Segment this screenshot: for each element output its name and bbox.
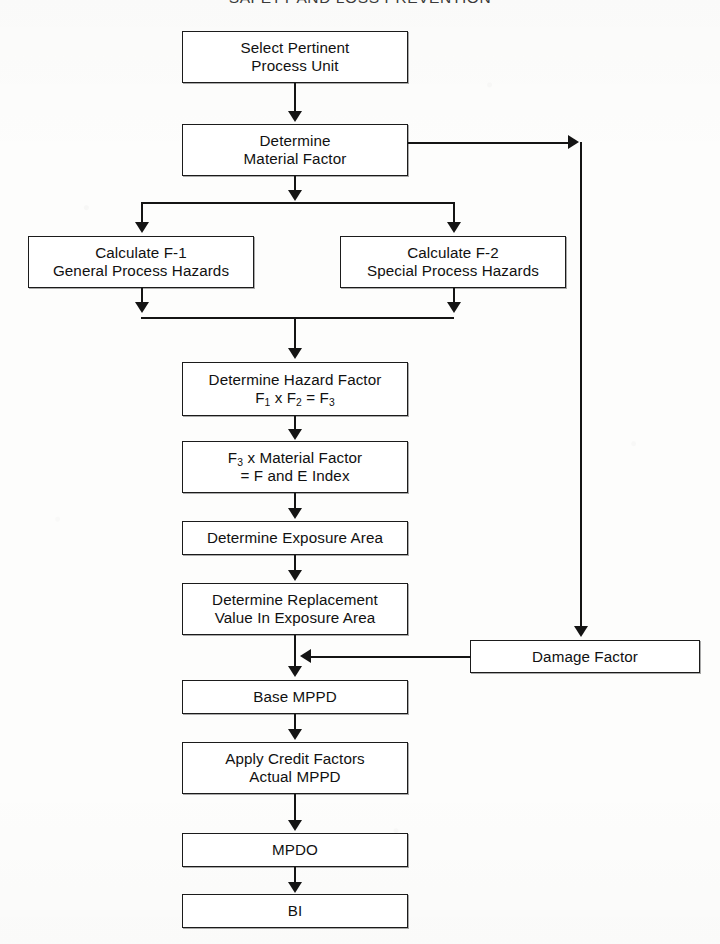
connector-material-factor-to-right-rail <box>408 142 571 144</box>
arrowhead-down-icon <box>288 729 302 740</box>
arrowhead-down-icon <box>447 302 461 313</box>
node-label: Determine Hazard FactorF1 x F2 = F3 <box>205 371 386 407</box>
arrowhead-down-icon <box>288 820 302 831</box>
arrowhead-down-icon <box>288 190 302 201</box>
arrowhead-down-icon <box>288 429 302 440</box>
connector-split-to-f2 <box>453 202 455 224</box>
node-determine-material-factor[interactable]: Determine Material Factor <box>182 124 408 176</box>
arrowhead-down-icon <box>288 882 302 893</box>
connector-base-mppd-to-credit-factors <box>294 714 296 730</box>
node-label: BI <box>284 902 307 920</box>
arrowhead-down-icon <box>288 508 302 519</box>
node-calculate-f2-special-process-hazards[interactable]: Calculate F-2 Special Process Hazards <box>340 236 566 288</box>
node-damage-factor[interactable]: Damage Factor <box>470 640 700 673</box>
connector-credit-factors-to-mpdo <box>294 794 296 821</box>
node-label: Calculate F-2 Special Process Hazards <box>363 244 543 280</box>
connector-split-to-f1 <box>141 202 143 224</box>
node-apply-credit-factors-actual-mppd[interactable]: Apply Credit Factors Actual MPPD <box>182 742 408 794</box>
node-calculate-f1-general-process-hazards[interactable]: Calculate F-1 General Process Hazards <box>28 236 254 288</box>
flowchart-page: SAFETY AND LOSS PREVENTION Select Pertin… <box>0 0 720 944</box>
node-label: Determine Material Factor <box>240 132 351 168</box>
node-bi[interactable]: BI <box>182 894 408 928</box>
connector-mpdo-to-bi <box>294 867 296 883</box>
node-determine-hazard-factor[interactable]: Determine Hazard FactorF1 x F2 = F3 <box>182 362 408 416</box>
node-label: Damage Factor <box>528 648 642 666</box>
connector-damage-factor-to-trunk <box>306 656 471 658</box>
node-mpdo[interactable]: MPDO <box>182 833 408 867</box>
node-base-mppd[interactable]: Base MPPD <box>182 680 408 714</box>
node-label: F3 x Material Factor= F and E Index <box>224 449 366 485</box>
node-select-pertinent-process-unit[interactable]: Select Pertinent Process Unit <box>182 31 408 83</box>
connector-split-bar <box>141 202 454 204</box>
node-label: Select Pertinent Process Unit <box>237 39 354 75</box>
arrowhead-down-icon <box>135 302 149 313</box>
node-determine-exposure-area[interactable]: Determine Exposure Area <box>182 521 408 555</box>
arrowhead-down-icon <box>288 348 302 359</box>
node-label: Determine Exposure Area <box>203 529 387 547</box>
node-label: Base MPPD <box>249 688 341 706</box>
node-label: Determine Replacement Value In Exposure … <box>208 591 382 627</box>
arrowhead-down-icon <box>135 222 149 233</box>
arrowhead-down-icon <box>574 626 588 637</box>
arrowhead-down-icon <box>288 111 302 122</box>
arrowhead-right-icon <box>568 135 579 149</box>
connector-merge-bar <box>141 317 454 319</box>
node-label: Apply Credit Factors Actual MPPD <box>221 750 369 786</box>
arrowhead-down-icon <box>447 222 461 233</box>
connector-exposure-area-to-replacement-value <box>294 555 296 571</box>
running-header: SAFETY AND LOSS PREVENTION <box>0 0 720 7</box>
node-determine-replacement-value[interactable]: Determine Replacement Value In Exposure … <box>182 583 408 635</box>
arrowhead-left-icon <box>300 649 311 663</box>
node-f-and-e-index[interactable]: F3 x Material Factor= F and E Index <box>182 441 408 493</box>
connector-right-rail-vertical <box>580 142 582 628</box>
node-label: Calculate F-1 General Process Hazards <box>49 244 233 280</box>
arrowhead-down-icon <box>288 666 302 677</box>
node-label: MPDO <box>268 841 322 859</box>
connector-select-unit-to-material-factor <box>294 83 296 113</box>
connector-merge-to-hazard-factor <box>294 317 296 350</box>
connector-replacement-value-to-base-mppd <box>294 635 296 669</box>
arrowhead-down-icon <box>288 570 302 581</box>
